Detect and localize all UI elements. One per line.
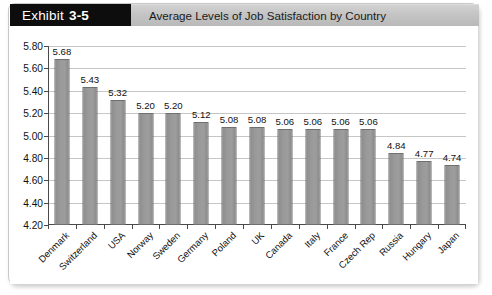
bar-value-label: 5.08 bbox=[248, 114, 267, 125]
bar[interactable] bbox=[417, 161, 432, 225]
bar[interactable] bbox=[222, 127, 237, 225]
x-axis-category-label: USA bbox=[104, 231, 126, 253]
x-axis-tick-mark bbox=[215, 225, 216, 229]
y-axis-tick-label: 4.80 bbox=[23, 152, 43, 163]
bar-slot: 5.08UK bbox=[243, 46, 271, 225]
bar-slot: 4.77Hungary bbox=[410, 46, 438, 225]
bar-value-label: 5.08 bbox=[220, 114, 239, 125]
bar-slot: 5.06France bbox=[327, 46, 355, 225]
bar-value-label: 5.43 bbox=[80, 74, 99, 85]
x-axis-category-label: Japan bbox=[434, 231, 460, 257]
exhibit-card: Exhibit 3-5 Average Levels of Job Satisf… bbox=[8, 3, 478, 284]
y-axis-tick-label: 5.80 bbox=[23, 41, 43, 52]
exhibit-tag-number: 3-5 bbox=[69, 8, 89, 23]
bar-value-label: 4.77 bbox=[415, 148, 434, 159]
x-axis-tick-mark bbox=[355, 225, 356, 229]
bar[interactable] bbox=[110, 100, 125, 225]
x-axis-category-label: Italy bbox=[300, 231, 320, 251]
x-axis-tick-mark bbox=[132, 225, 133, 229]
bar-slot: 5.08Poland bbox=[215, 46, 243, 225]
y-axis-tick-label: 4.60 bbox=[23, 175, 43, 186]
bar-value-label: 5.06 bbox=[331, 116, 350, 127]
bar-slot: 5.32USA bbox=[104, 46, 132, 225]
bar-slot: 5.06Canada bbox=[271, 46, 299, 225]
x-axis-tick-mark bbox=[187, 225, 188, 229]
bar[interactable] bbox=[389, 153, 404, 225]
bar[interactable] bbox=[305, 129, 320, 225]
bar[interactable] bbox=[166, 113, 181, 225]
x-axis-tick-mark bbox=[48, 225, 49, 229]
bar-slot: 5.06Italy bbox=[299, 46, 327, 225]
x-axis-category-label-text: Canada bbox=[263, 230, 294, 261]
bar[interactable] bbox=[194, 122, 209, 225]
exhibit-tag: Exhibit 3-5 bbox=[10, 4, 131, 26]
x-axis-tick-mark bbox=[243, 225, 244, 229]
bar-value-label: 5.06 bbox=[303, 116, 322, 127]
x-axis-tick-mark bbox=[271, 225, 272, 229]
bar[interactable] bbox=[249, 127, 264, 225]
bar-value-label: 4.74 bbox=[443, 152, 462, 163]
bar-slot: 5.12Germany bbox=[187, 46, 215, 225]
y-axis-tick-label: 5.60 bbox=[23, 63, 43, 74]
bar-slot: 5.20Sweden bbox=[159, 46, 187, 225]
x-axis-category-label: UK bbox=[248, 231, 265, 248]
y-axis-tick-label: 5.00 bbox=[23, 130, 43, 141]
bar-value-label: 5.20 bbox=[164, 100, 183, 111]
x-axis-tick-mark bbox=[104, 225, 105, 229]
y-axis-tick-label: 4.20 bbox=[23, 220, 43, 231]
y-axis-tick-label: 5.20 bbox=[23, 108, 43, 119]
x-axis-category-label: Poland bbox=[208, 231, 237, 260]
bar-value-label: 5.06 bbox=[359, 116, 378, 127]
x-axis-category-label-text: UK bbox=[249, 230, 266, 247]
bar-slot: 4.74Japan bbox=[438, 46, 466, 225]
x-axis-tick-mark bbox=[465, 225, 466, 229]
x-axis-category-label-text: USA bbox=[105, 230, 127, 252]
x-axis-tick-mark bbox=[159, 225, 160, 229]
x-axis-category-label-text: Poland bbox=[210, 230, 239, 259]
y-axis-tick-label: 4.40 bbox=[23, 197, 43, 208]
bar-slot: 5.68Denmark bbox=[48, 46, 76, 225]
x-axis-tick-mark bbox=[382, 225, 383, 229]
x-axis-category-label: Norway bbox=[123, 231, 154, 262]
x-axis-category-label: Canada bbox=[261, 231, 292, 262]
x-axis-category-label-text: Italy bbox=[302, 230, 322, 250]
plot-area: 5.805.605.405.205.004.804.604.404.20 5.6… bbox=[48, 46, 466, 225]
bar[interactable] bbox=[445, 165, 460, 225]
x-axis-category-label-text: Hungary bbox=[400, 230, 433, 263]
exhibit-tag-word: Exhibit bbox=[22, 8, 64, 23]
chart-area: 5.805.605.405.205.004.804.604.404.20 5.6… bbox=[10, 26, 478, 284]
bar[interactable] bbox=[333, 129, 348, 225]
x-axis-tick-mark bbox=[327, 225, 328, 229]
exhibit-header: Exhibit 3-5 Average Levels of Job Satisf… bbox=[10, 4, 479, 26]
x-axis-tick-mark bbox=[410, 225, 411, 229]
exhibit-title: Average Levels of Job Satisfaction by Co… bbox=[149, 9, 386, 22]
bar-value-label: 5.20 bbox=[136, 100, 155, 111]
bar-value-label: 5.06 bbox=[276, 116, 295, 127]
bar-value-label: 5.68 bbox=[53, 46, 72, 57]
bar[interactable] bbox=[277, 129, 292, 225]
bar-value-label: 4.84 bbox=[387, 140, 406, 151]
bar-value-label: 5.32 bbox=[108, 87, 127, 98]
x-axis-tick-mark bbox=[438, 225, 439, 229]
x-axis-tick-mark bbox=[76, 225, 77, 229]
bar[interactable] bbox=[361, 129, 376, 225]
bar-slot: 5.43Switzerland bbox=[76, 46, 104, 225]
bar-series: 5.68Denmark5.43Switzerland5.32USA5.20Nor… bbox=[48, 46, 466, 225]
exhibit-title-band: Average Levels of Job Satisfaction by Co… bbox=[131, 4, 479, 26]
bar-slot: 5.06Czech Rep bbox=[355, 46, 383, 225]
y-axis-tick-label: 5.40 bbox=[23, 85, 43, 96]
bar-slot: 5.20Norway bbox=[132, 46, 160, 225]
bar[interactable] bbox=[138, 113, 153, 225]
bar-value-label: 5.12 bbox=[192, 109, 211, 120]
bar[interactable] bbox=[54, 59, 69, 225]
bar[interactable] bbox=[82, 87, 97, 225]
x-axis-category-label-text: Japan bbox=[435, 230, 461, 256]
x-axis-tick-mark bbox=[299, 225, 300, 229]
bar-slot: 4.84Russia bbox=[382, 46, 410, 225]
